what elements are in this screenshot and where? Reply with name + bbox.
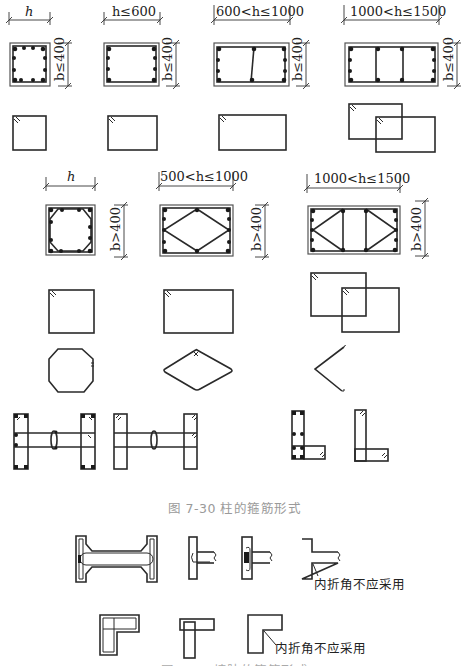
t-wall-inner-corner: [302, 539, 340, 579]
l-shape-section-with-bars: [292, 411, 325, 459]
dim-b-label: b≤400: [52, 37, 67, 81]
i-wall-section: [76, 536, 157, 582]
figure-caption-bottom-cutoff: 图 7-31 墙肢的箍筋形式: [0, 660, 469, 666]
section-7-rect-triangles: 1000<h≤1500 b>400: [304, 171, 429, 259]
t-wall-section-c: [180, 619, 214, 658]
inner-corner-note-1: 内折角不应采用: [314, 574, 405, 593]
dim-h-label: h: [25, 4, 33, 19]
dim-b-label: b>400: [108, 207, 123, 251]
stirrup-decomposition-row2: [49, 273, 399, 392]
figure-caption: 图 7-30 柱的箍筋形式: [0, 498, 469, 517]
dim-b-label: b>400: [409, 207, 424, 251]
section-2-rect: h≤600 b≤400: [101, 4, 180, 150]
t-wall-section-b: [242, 537, 272, 579]
dim-h-label: h≤600: [112, 4, 156, 19]
dim-b-label: b>400: [249, 207, 264, 251]
section-1-square: h b≤400: [6, 4, 72, 150]
dim-h-label: 600<h≤1000: [216, 4, 304, 19]
section-5-square-octagon: h b>400: [43, 169, 128, 260]
stirrup-forms-figure: h b≤400 h≤600: [0, 0, 469, 666]
section-6-rect-diamond: 500<h≤1000 b>400: [156, 169, 269, 260]
section-3-rect-two-legs: 600<h≤1000 b≤400: [211, 4, 310, 150]
inner-corner-note-2: 内折角不应采用: [275, 638, 366, 657]
dim-b-label: b≤400: [441, 37, 456, 81]
h-shape-section-with-bars: [14, 414, 95, 469]
h-shape-stirrups: [114, 414, 197, 469]
t-wall-section-a: [189, 537, 216, 579]
dim-h-label: 1000<h≤1500: [314, 171, 410, 186]
dim-h-label: 1000<h≤1500: [350, 4, 446, 19]
l-shape-stirrups: [355, 410, 388, 461]
l-wall-section-a: [100, 615, 139, 655]
dim-b-label: b≤400: [290, 37, 305, 81]
dim-h-label: h: [67, 169, 75, 184]
dim-h-label: 500<h≤1000: [160, 169, 248, 184]
section-4-rect-overlapping: 1000<h≤1500 b≤400: [341, 4, 461, 152]
dim-b-label: b≤400: [160, 37, 175, 81]
